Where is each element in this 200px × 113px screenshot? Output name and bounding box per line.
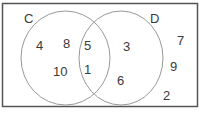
region-intersection-value: 1 [84, 63, 91, 76]
region-c-only-value: 8 [63, 37, 70, 50]
set-d-label: D [150, 12, 159, 25]
region-c-only-value: 10 [53, 65, 67, 78]
region-d-only-value: 6 [117, 74, 124, 87]
region-outside-value: 9 [170, 60, 177, 73]
region-intersection-value: 5 [84, 39, 91, 52]
region-d-only-value: 3 [123, 40, 130, 53]
region-c-only-value: 4 [36, 39, 43, 52]
set-c-label: C [24, 12, 33, 25]
region-outside-value: 2 [163, 89, 170, 102]
set-c-circle [21, 11, 110, 105]
venn-diagram: C D 4 8 10 5 1 3 6 7 9 2 [0, 0, 200, 113]
region-outside-value: 7 [177, 34, 184, 47]
